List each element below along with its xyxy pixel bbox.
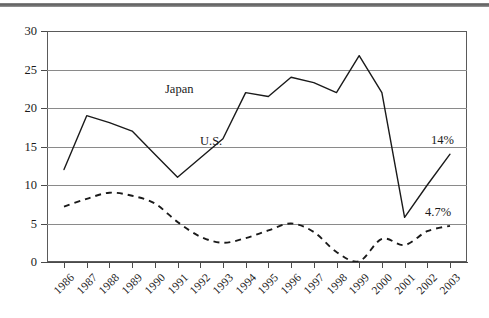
x-tick-label: 1991 — [165, 271, 190, 296]
x-axis-tick — [178, 262, 179, 268]
y-tick-label: 25 — [3, 63, 37, 76]
x-tick-label: 1986 — [51, 271, 76, 296]
y-tick-label: 15 — [3, 140, 37, 153]
x-axis-tick — [200, 262, 201, 268]
x-axis-tick — [87, 262, 88, 268]
page-top-rule — [0, 3, 489, 7]
series-line-japan — [64, 193, 450, 262]
x-tick-label: 2001 — [392, 271, 417, 296]
end-value-label-japan: 4.7% — [425, 205, 451, 220]
x-axis-tick — [109, 262, 110, 268]
y-tick-label: 0 — [3, 256, 37, 269]
x-tick-label: 2002 — [414, 271, 439, 296]
x-tick-label: 1987 — [74, 271, 99, 296]
x-tick-label: 1992 — [187, 271, 212, 296]
x-tick-label: 1997 — [301, 271, 326, 296]
x-tick-label: 2000 — [369, 271, 394, 296]
x-axis-tick — [382, 262, 383, 268]
y-tick-label: 30 — [3, 25, 37, 38]
x-axis-tick — [223, 262, 224, 268]
series-label-japan: Japan — [165, 82, 193, 97]
x-axis-tick — [132, 262, 133, 268]
series-lines — [47, 31, 467, 262]
x-tick-label: 1994 — [233, 271, 258, 296]
x-axis-tick — [155, 262, 156, 268]
x-tick-label: 1993 — [210, 271, 235, 296]
end-value-label-us: 14% — [431, 133, 454, 148]
x-tick-label: 1996 — [278, 271, 303, 296]
x-axis-tick — [64, 262, 65, 268]
chart-page: 30 25 20 15 10 5 0 U.S. Japan 14% 4.7% 1… — [0, 0, 489, 318]
x-tick-label: 1989 — [119, 271, 144, 296]
y-tick-label: 10 — [3, 179, 37, 192]
x-axis-tick — [291, 262, 292, 268]
x-tick-label: 1998 — [324, 271, 349, 296]
x-tick-label: 2003 — [437, 271, 462, 296]
x-axis-tick — [337, 262, 338, 268]
x-axis-tick — [405, 262, 406, 268]
x-tick-label: 1995 — [256, 271, 281, 296]
x-tick-label: 1988 — [97, 271, 122, 296]
y-axis-labels: 30 25 20 15 10 5 0 — [0, 0, 37, 318]
y-tick-label: 5 — [3, 217, 37, 230]
x-axis-tick — [450, 262, 451, 268]
x-axis-tick — [427, 262, 428, 268]
x-axis-tick — [359, 262, 360, 268]
series-label-us: U.S. — [200, 134, 222, 149]
x-axis-tick — [246, 262, 247, 268]
x-tick-label: 1990 — [142, 271, 167, 296]
x-axis-tick — [314, 262, 315, 268]
plot-area: U.S. Japan 14% 4.7% — [47, 31, 467, 262]
x-tick-label: 1999 — [346, 271, 371, 296]
x-axis-tick — [268, 262, 269, 268]
y-tick-label: 20 — [3, 102, 37, 115]
